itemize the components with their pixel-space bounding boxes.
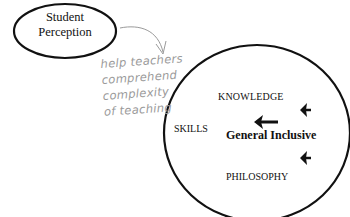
student-perception-line1: Student <box>13 10 117 25</box>
knowledge-label: KNOWLEDGE <box>218 91 284 102</box>
arrow-left-icon <box>300 151 311 165</box>
arrow-left-icon <box>254 115 278 129</box>
skills-label: SKILLS <box>174 123 208 134</box>
general-inclusive-label: General Inclusive <box>226 128 316 143</box>
handwritten-annotation: help teachers comprehend complexity of t… <box>100 50 187 120</box>
student-perception-line2: Perception <box>13 25 117 40</box>
philosophy-label: PHILOSOPHY <box>226 171 288 182</box>
student-perception-label: Student Perception <box>13 10 117 40</box>
arrow-left-icon <box>300 103 311 117</box>
hand-drawn-arrow-icon <box>120 27 163 52</box>
